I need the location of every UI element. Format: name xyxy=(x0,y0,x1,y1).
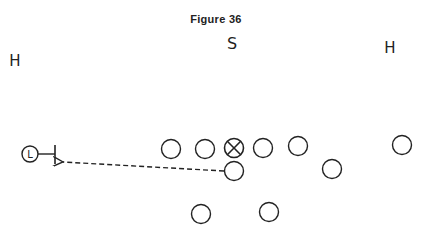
ball-carrier-marker: L xyxy=(22,145,55,164)
safety-label: S xyxy=(227,34,237,53)
dashed-path-arrow xyxy=(63,162,224,171)
player-circles xyxy=(162,136,412,224)
player-circle xyxy=(254,139,273,158)
player-circle xyxy=(393,136,412,155)
play-diagram: S H H L xyxy=(0,0,432,241)
player-circle xyxy=(162,140,181,159)
player-circle xyxy=(192,205,211,224)
ball-carrier-label: L xyxy=(27,149,33,160)
center-crossed-circle xyxy=(225,139,244,158)
halfback-right-label: H xyxy=(384,39,395,57)
player-circle xyxy=(323,160,342,179)
halfback-left-label: H xyxy=(9,52,20,70)
player-circle xyxy=(260,203,279,222)
player-circle xyxy=(196,140,215,159)
player-circle xyxy=(289,137,308,156)
player-circle-qb xyxy=(225,162,244,181)
